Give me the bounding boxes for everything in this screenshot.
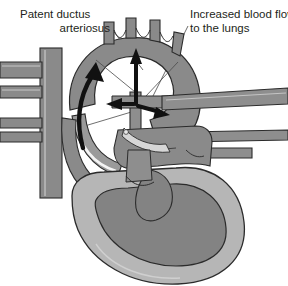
left-vessel-branches [0,62,42,142]
patent-ductus-label-line2: arteriosus [60,22,111,34]
diagram-canvas: Patent ductus arteriosus Increased blood… [0,0,288,286]
increased-flow-label-line2: to the lungs [190,22,250,34]
superior-vena-cava [40,48,62,198]
pda-diagram-figure: Patent ductus arteriosus Increased blood… [0,0,288,286]
patent-ductus-label-line1: Patent ductus [20,8,91,20]
increased-flow-label-line1: Increased blood flow [190,8,288,20]
aortic-root [126,150,154,185]
